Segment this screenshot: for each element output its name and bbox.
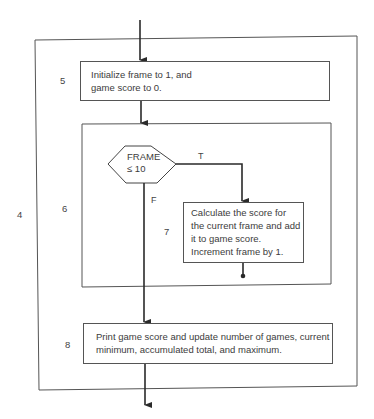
step7-line2: the current frame and add	[191, 219, 300, 232]
step7-box: Calculate the score for the current fram…	[183, 202, 304, 263]
step7-line4: Increment frame by 1.	[191, 245, 283, 258]
step7-line1: Calculate the score for	[191, 206, 286, 219]
step5-number: 5	[60, 75, 65, 86]
step5-box: Initialize frame to 1, and game score to…	[80, 61, 330, 101]
decision-line1: FRAME	[127, 151, 160, 163]
step8-line1: Print game score and update number of ga…	[96, 330, 329, 343]
step8-box: Print game score and update number of ga…	[83, 323, 333, 364]
loop-block-number: 6	[62, 203, 67, 214]
false-label: F	[151, 195, 157, 205]
true-label: T	[198, 151, 204, 161]
step8-line2: minimum, accumulated total, and maximum.	[96, 343, 282, 356]
loop-return-dot	[241, 274, 246, 279]
true-branch-line	[176, 164, 242, 201]
step5-line1: Initialize frame to 1, and	[91, 68, 192, 81]
decision-line2: ≤ 10	[127, 163, 145, 175]
step7-line3: it to game score.	[191, 232, 261, 245]
step5-line2: game score to 0.	[91, 81, 162, 94]
step8-number: 8	[65, 339, 70, 350]
step7-number: 7	[164, 226, 169, 237]
outer-block-number: 4	[17, 209, 22, 220]
